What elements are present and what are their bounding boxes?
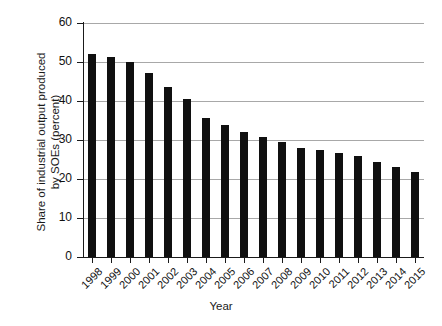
x-tick-mark [149,258,150,263]
x-tick-mark [111,258,112,263]
bar [88,54,96,257]
bar [202,118,210,257]
x-tick-mark [377,258,378,263]
x-tick-mark [301,258,302,263]
x-tick-mark [282,258,283,263]
bar [278,142,286,257]
y-tick-label: 10 [42,210,72,224]
bar [259,137,267,257]
y-tick-label: 20 [42,171,72,185]
bar [316,150,324,257]
x-tick-mark [206,258,207,263]
x-tick-mark [339,258,340,263]
x-axis-line [83,257,424,258]
bar [145,73,153,257]
bar [164,87,172,257]
x-tick-mark [396,258,397,263]
x-tick-mark [244,258,245,263]
x-axis-title: Year [0,300,442,312]
y-tick-label: 50 [42,54,72,68]
y-tick-label: 60 [42,15,72,29]
x-tick-mark [358,258,359,263]
bars-container [83,23,424,257]
x-tick-mark [415,258,416,263]
bar [240,132,248,257]
bar [221,125,229,257]
y-tick-label: 30 [42,132,72,146]
bar [183,99,191,257]
bar [354,156,362,257]
x-tick-mark [320,258,321,263]
bar [297,148,305,257]
x-tick-mark [130,258,131,263]
bar [373,162,381,257]
bar [392,167,400,257]
bar [126,62,134,257]
bar [107,57,115,257]
x-tick-mark [168,258,169,263]
x-tick-mark [225,258,226,263]
bar [335,153,343,257]
bar-chart: Share of industrial output produced by S… [0,0,442,326]
x-tick-mark [92,258,93,263]
y-tick-label: 40 [42,93,72,107]
x-tick-mark [263,258,264,263]
y-tick-label: 0 [42,249,72,263]
bar [411,172,419,257]
x-tick-mark [187,258,188,263]
